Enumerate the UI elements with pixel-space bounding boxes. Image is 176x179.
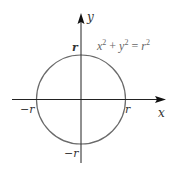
y-axis-label: y <box>86 10 94 24</box>
intercept-bottom-label: −r <box>64 147 79 160</box>
circle-equation: x2 + y2 = r2 <box>96 38 150 53</box>
intercept-right-label: r <box>125 103 131 116</box>
svg-text:x2 + y2 = r2: x2 + y2 = r2 <box>96 38 150 53</box>
circle-diagram: y x r r −r −r x2 + y2 = r2 <box>0 0 176 179</box>
intercept-left-label: −r <box>20 103 35 116</box>
x-axis-label: x <box>158 106 165 120</box>
intercept-top-label: r <box>72 41 79 54</box>
